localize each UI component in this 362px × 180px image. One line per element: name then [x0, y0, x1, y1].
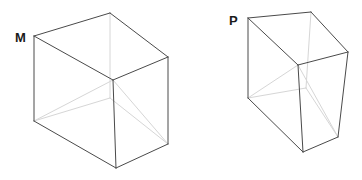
vertex-label-p: P: [229, 13, 238, 28]
vertex-label-m: M: [15, 30, 26, 45]
wireframe-figure-canvas: M P: [0, 0, 362, 180]
